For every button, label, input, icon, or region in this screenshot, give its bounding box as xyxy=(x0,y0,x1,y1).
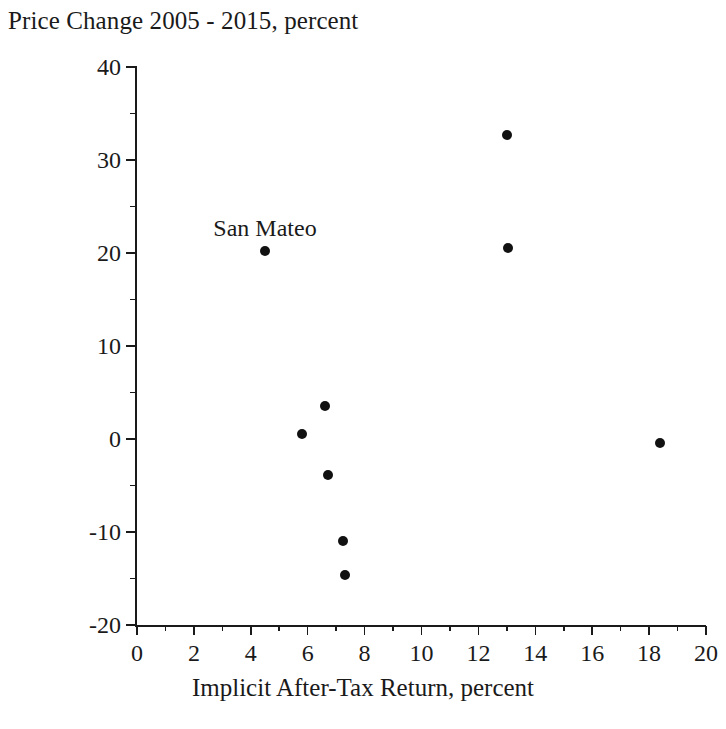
y-tick-minor xyxy=(130,206,135,208)
y-tick-major xyxy=(126,345,135,347)
y-tick-minor xyxy=(130,485,135,487)
x-tick-minor xyxy=(335,626,337,631)
y-tick-major xyxy=(126,624,135,626)
x-tick-major xyxy=(705,626,707,635)
x-tick-major xyxy=(535,626,537,635)
x-tick-minor xyxy=(222,626,224,631)
y-tick-label: 30 xyxy=(97,148,121,172)
x-tick-major xyxy=(307,626,309,635)
plot-area: -20-10010203040 02468101214161820 San Ma… xyxy=(137,67,706,625)
scatter-chart-figure: Price Change 2005 - 2015, percent -20-10… xyxy=(0,0,726,729)
x-tick-minor xyxy=(392,626,394,631)
x-tick-label: 10 xyxy=(410,641,434,665)
x-tick-major xyxy=(591,626,593,635)
y-tick-label: 20 xyxy=(97,241,121,265)
y-tick-major xyxy=(126,159,135,161)
y-tick-minor xyxy=(130,392,135,394)
chart-title: Price Change 2005 - 2015, percent xyxy=(8,6,358,36)
data-point xyxy=(503,243,513,253)
y-tick-minor xyxy=(130,578,135,580)
y-axis-line xyxy=(135,66,137,626)
x-tick-major xyxy=(648,626,650,635)
x-tick-minor xyxy=(563,626,565,631)
x-tick-minor xyxy=(278,626,280,631)
y-tick-label: -10 xyxy=(89,520,121,544)
data-point xyxy=(260,246,270,256)
data-point xyxy=(655,438,665,448)
x-tick-major xyxy=(250,626,252,635)
x-tick-label: 0 xyxy=(131,641,143,665)
x-tick-minor xyxy=(165,626,167,631)
y-tick-major xyxy=(126,531,135,533)
x-tick-label: 6 xyxy=(302,641,314,665)
y-tick-minor xyxy=(130,113,135,115)
data-point xyxy=(338,536,348,546)
data-point xyxy=(502,130,512,140)
data-point xyxy=(320,401,330,411)
y-tick-label: 40 xyxy=(97,55,121,79)
x-tick-major xyxy=(136,626,138,635)
x-tick-label: 4 xyxy=(245,641,257,665)
x-tick-label: 18 xyxy=(637,641,661,665)
y-tick-label: -20 xyxy=(89,613,121,637)
x-tick-major xyxy=(478,626,480,635)
data-point xyxy=(340,570,350,580)
x-tick-major xyxy=(364,626,366,635)
data-point xyxy=(323,470,333,480)
x-tick-minor xyxy=(620,626,622,631)
y-tick-major xyxy=(126,66,135,68)
x-tick-major xyxy=(193,626,195,635)
data-point-label: San Mateo xyxy=(213,216,316,240)
x-tick-label: 14 xyxy=(523,641,547,665)
x-tick-minor xyxy=(449,626,451,631)
x-tick-label: 2 xyxy=(188,641,200,665)
x-tick-minor xyxy=(506,626,508,631)
x-tick-label: 16 xyxy=(580,641,604,665)
x-tick-label: 20 xyxy=(694,641,718,665)
x-tick-major xyxy=(421,626,423,635)
x-tick-label: 12 xyxy=(466,641,490,665)
y-tick-minor xyxy=(130,299,135,301)
data-point xyxy=(297,429,307,439)
x-axis-title: Implicit After-Tax Return, percent xyxy=(0,673,726,703)
x-tick-label: 8 xyxy=(359,641,371,665)
y-tick-label: 10 xyxy=(97,334,121,358)
y-tick-major xyxy=(126,438,135,440)
y-tick-major xyxy=(126,252,135,254)
x-tick-minor xyxy=(677,626,679,631)
y-tick-label: 0 xyxy=(109,427,121,451)
